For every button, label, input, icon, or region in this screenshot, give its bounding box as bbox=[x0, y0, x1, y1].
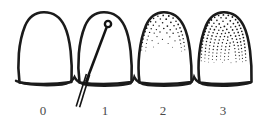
tooth-outline-3 bbox=[199, 12, 252, 84]
tooth-outline-0 bbox=[18, 12, 71, 84]
tooth-score-0 bbox=[18, 12, 71, 84]
tooth-outline-2 bbox=[139, 12, 192, 84]
score-label-0: 0 bbox=[31, 104, 55, 118]
dental-plaque-index-figure: 0 1 2 3 bbox=[0, 0, 261, 126]
score-label-2: 2 bbox=[151, 104, 175, 118]
score-label-3: 3 bbox=[211, 104, 235, 118]
probe-tip-icon bbox=[105, 21, 111, 27]
score-label-1: 1 bbox=[93, 104, 117, 118]
tooth-score-2 bbox=[139, 12, 192, 84]
tooth-score-3 bbox=[199, 12, 252, 84]
